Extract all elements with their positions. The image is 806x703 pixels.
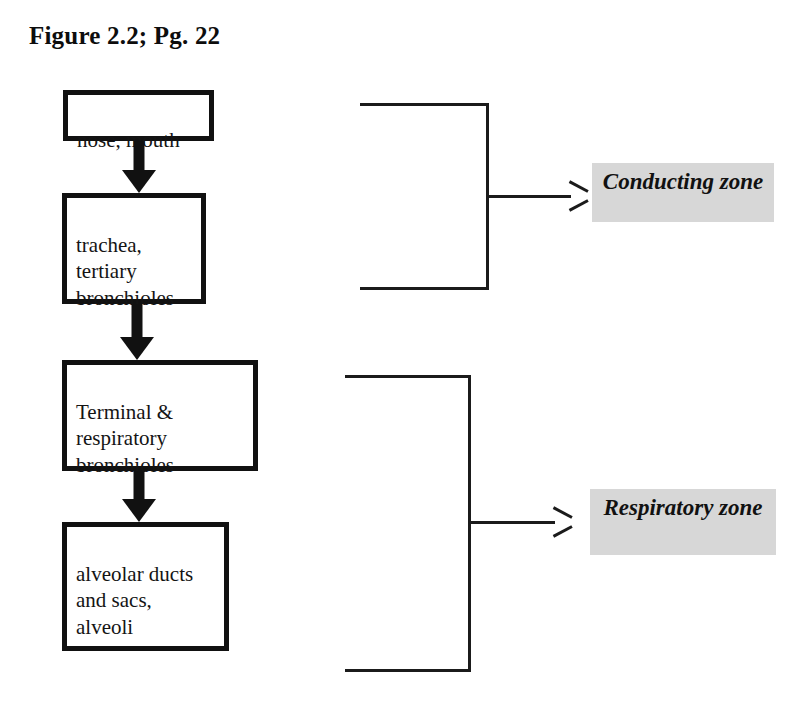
right-arrow-icon-conducting bbox=[487, 186, 587, 206]
arrow-head bbox=[551, 512, 571, 532]
bracket-respiratory-zone bbox=[345, 375, 471, 672]
bracket-bottom-line bbox=[360, 287, 489, 290]
flow-box-label: trachea, tertiary bronchioles bbox=[76, 232, 201, 312]
zone-label-text: Conducting zone bbox=[603, 169, 763, 195]
flow-box-terminal-bronchioles: Terminal & respiratory bronchioles bbox=[62, 360, 258, 471]
bracket-top-line bbox=[360, 103, 489, 106]
right-arrow-icon-respiratory bbox=[469, 512, 571, 532]
zone-label-respiratory: Respiratory zone bbox=[590, 489, 776, 555]
arrow-shaft bbox=[132, 304, 143, 337]
zone-label-text: Respiratory zone bbox=[603, 495, 762, 521]
arrow-shaft bbox=[134, 141, 145, 170]
bracket-conducting-zone bbox=[360, 103, 489, 290]
figure-title: Figure 2.2; Pg. 22 bbox=[29, 22, 220, 50]
flow-box-alveolar-ducts-alveoli: alveolar ducts and sacs, alveoli bbox=[62, 522, 229, 651]
zone-label-conducting: Conducting zone bbox=[592, 163, 774, 222]
flow-box-label: Terminal & respiratory bronchioles bbox=[76, 399, 253, 479]
bracket-top-line bbox=[345, 375, 471, 378]
bracket-bottom-line bbox=[345, 669, 471, 672]
down-block-arrow-icon bbox=[122, 141, 156, 193]
arrow-head bbox=[122, 499, 156, 522]
flow-box-trachea-bronchioles: trachea, tertiary bronchioles bbox=[62, 193, 206, 304]
arrow-head bbox=[122, 170, 156, 193]
flow-box-nose-mouth: nose, mouth bbox=[63, 90, 214, 141]
arrow-shaft bbox=[469, 521, 555, 524]
arrow-head bbox=[120, 337, 154, 360]
figure-canvas: Figure 2.2; Pg. 22 nose, mouth trachea, … bbox=[0, 0, 806, 703]
down-block-arrow-icon bbox=[122, 471, 156, 522]
arrow-shaft bbox=[487, 195, 571, 198]
down-block-arrow-icon bbox=[120, 304, 154, 360]
arrow-head bbox=[567, 186, 587, 206]
arrow-shaft bbox=[134, 471, 145, 499]
flow-box-label: alveolar ducts and sacs, alveoli bbox=[76, 561, 224, 641]
